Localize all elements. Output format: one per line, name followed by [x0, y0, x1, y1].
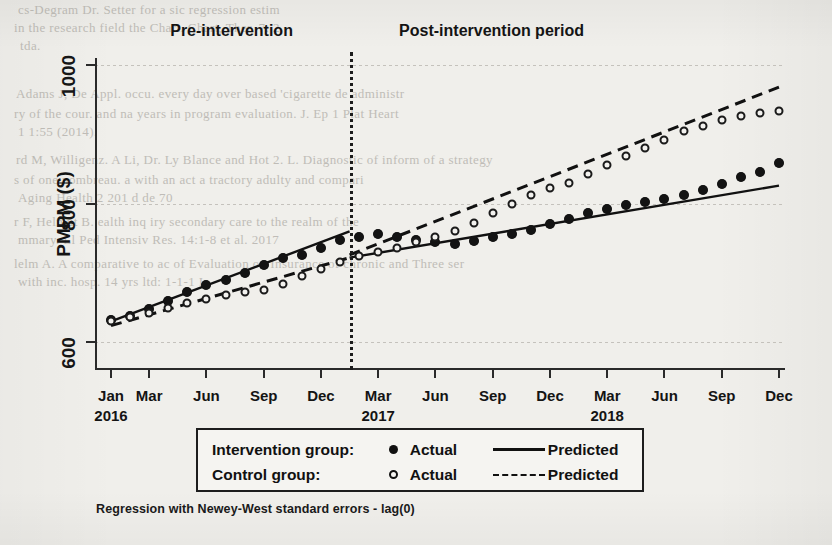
- intervention-actual-point: [240, 268, 249, 277]
- control-actual-point: [755, 109, 764, 118]
- x-tick-label: Jun: [422, 387, 449, 404]
- x-tick-label: Mar: [136, 387, 163, 404]
- x-tick-label: Sep: [479, 387, 507, 404]
- x-tick: [663, 370, 665, 378]
- intervention-actual-point: [393, 232, 402, 241]
- intervention-actual-point: [488, 232, 497, 241]
- control-actual-point: [545, 184, 554, 193]
- intervention-actual-point: [698, 185, 707, 194]
- intervention-actual-point: [679, 191, 688, 200]
- y-tick-label: 600: [58, 337, 80, 369]
- control-actual-point: [202, 295, 211, 304]
- control-actual-point: [221, 291, 230, 300]
- x-tick: [778, 370, 780, 378]
- chart-legend: Intervention group:ActualPredictedContro…: [196, 428, 644, 492]
- post-intervention-label: Post-intervention period: [399, 22, 584, 40]
- intervention-actual-point: [622, 200, 631, 209]
- x-tick: [434, 370, 436, 378]
- x-tick-label: Mar: [594, 387, 621, 404]
- intervention-actual-point: [603, 205, 612, 214]
- intervention-actual-point: [259, 260, 268, 269]
- x-tick-year-label: 2016: [94, 407, 127, 424]
- intervention-predicted-line: [350, 186, 779, 258]
- x-tick: [320, 370, 322, 378]
- intervention-actual-point: [297, 250, 306, 259]
- x-tick-label: Sep: [250, 387, 278, 404]
- y-tick-label: 1000: [58, 55, 80, 97]
- x-tick-year-label: 2017: [362, 407, 395, 424]
- pre-intervention-label: Pre-intervention: [170, 22, 293, 40]
- x-tick-label: Mar: [365, 387, 392, 404]
- control-actual-point: [107, 317, 116, 326]
- intervention-actual-point: [660, 195, 669, 204]
- legend-row: Control group:ActualPredicted: [212, 462, 628, 487]
- intervention-actual-point: [316, 243, 325, 252]
- intervention-actual-point: [469, 237, 478, 246]
- intervention-divider-line: [350, 52, 353, 370]
- control-actual-point: [450, 227, 459, 236]
- control-actual-point: [679, 127, 688, 136]
- x-tick-label: Sep: [708, 387, 736, 404]
- x-tick-year-label: 2018: [591, 407, 624, 424]
- x-tick: [377, 370, 379, 378]
- control-actual-point: [316, 264, 325, 273]
- y-tick-label: 800: [58, 199, 80, 231]
- control-actual-point: [355, 252, 364, 261]
- y-tick: [86, 64, 95, 66]
- intervention-actual-point: [278, 253, 287, 262]
- filled-circle-icon: [389, 445, 398, 454]
- dashed-line-icon: [493, 474, 545, 476]
- control-actual-point: [736, 112, 745, 121]
- legend-row: Intervention group:ActualPredicted: [212, 437, 628, 462]
- intervention-actual-point: [221, 275, 230, 284]
- control-actual-point: [641, 144, 650, 153]
- x-tick-label: Dec: [536, 387, 564, 404]
- intervention-actual-point: [183, 288, 192, 297]
- legend-marker: [378, 445, 410, 454]
- control-actual-point: [431, 232, 440, 241]
- intervention-actual-point: [775, 159, 784, 168]
- x-tick-label: Jun: [193, 387, 220, 404]
- intervention-actual-point: [355, 232, 364, 241]
- control-actual-point: [775, 106, 784, 115]
- x-tick: [148, 370, 150, 378]
- control-predicted-line: [350, 87, 779, 255]
- x-tick: [549, 370, 551, 378]
- intervention-actual-point: [374, 230, 383, 239]
- x-tick-label: Jan: [98, 387, 124, 404]
- control-actual-point: [584, 170, 593, 179]
- intervention-actual-point: [526, 225, 535, 234]
- intervention-actual-point: [202, 281, 211, 290]
- y-tick: [86, 341, 95, 343]
- x-tick-label: Dec: [307, 387, 335, 404]
- intervention-actual-point: [641, 198, 650, 207]
- control-actual-point: [565, 178, 574, 187]
- control-actual-point: [297, 271, 306, 280]
- legend-line-swatch: [490, 474, 548, 476]
- x-tick: [721, 370, 723, 378]
- legend-group-label: Control group:: [212, 466, 378, 484]
- control-actual-point: [259, 285, 268, 294]
- intervention-actual-point: [584, 209, 593, 218]
- control-actual-point: [507, 199, 516, 208]
- control-actual-point: [336, 257, 345, 266]
- intervention-actual-point: [545, 220, 554, 229]
- plot-area: PMPM ($) 6008001000 Jan2016MarJunSepDecM…: [95, 58, 785, 370]
- legend-group-label: Intervention group:: [212, 441, 378, 459]
- x-tick: [205, 370, 207, 378]
- chart-footnote: Regression with Newey-West standard erro…: [96, 502, 415, 516]
- x-tick-label: Jun: [651, 387, 678, 404]
- control-actual-point: [126, 313, 135, 322]
- intervention-actual-point: [450, 239, 459, 248]
- control-actual-point: [622, 152, 631, 161]
- control-actual-point: [393, 243, 402, 252]
- intervention-actual-point: [717, 180, 726, 189]
- x-tick: [263, 370, 265, 378]
- regression-fit-lines: [95, 58, 785, 370]
- intervention-actual-point: [755, 167, 764, 176]
- control-actual-point: [469, 219, 478, 228]
- intervention-actual-point: [336, 235, 345, 244]
- control-actual-point: [164, 303, 173, 312]
- x-tick: [492, 370, 494, 378]
- intervention-actual-point: [565, 214, 574, 223]
